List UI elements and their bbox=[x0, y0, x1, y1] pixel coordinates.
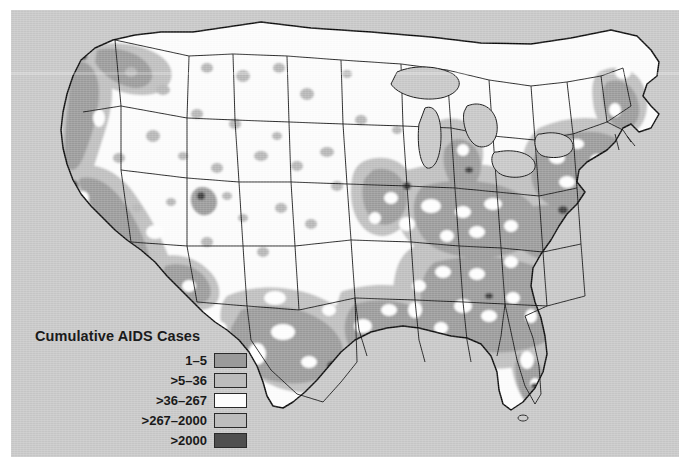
legend-row: 1–5 bbox=[29, 351, 247, 369]
figure-root: Cumulative AIDS Cases 1–5 >5–36 >36–267 … bbox=[0, 0, 690, 470]
legend-label: >2000 bbox=[170, 433, 214, 448]
legend-label: >36–267 bbox=[156, 393, 214, 408]
legend-swatch bbox=[214, 353, 247, 368]
map-legend: Cumulative AIDS Cases 1–5 >5–36 >36–267 … bbox=[29, 328, 247, 451]
legend-label: >267–2000 bbox=[142, 413, 214, 428]
legend-swatch bbox=[214, 433, 247, 448]
legend-row: >5–36 bbox=[29, 371, 247, 389]
legend-row: >2000 bbox=[29, 431, 247, 449]
map-plate: Cumulative AIDS Cases 1–5 >5–36 >36–267 … bbox=[11, 10, 679, 457]
offshore-islands bbox=[518, 415, 528, 421]
legend-row: >36–267 bbox=[29, 391, 247, 409]
legend-swatch bbox=[214, 393, 247, 408]
legend-title: Cumulative AIDS Cases bbox=[35, 328, 247, 344]
legend-label: >5–36 bbox=[170, 373, 214, 388]
legend-swatch bbox=[214, 373, 247, 388]
legend-swatch bbox=[214, 413, 247, 428]
legend-label: 1–5 bbox=[185, 353, 214, 368]
legend-row: >267–2000 bbox=[29, 411, 247, 429]
